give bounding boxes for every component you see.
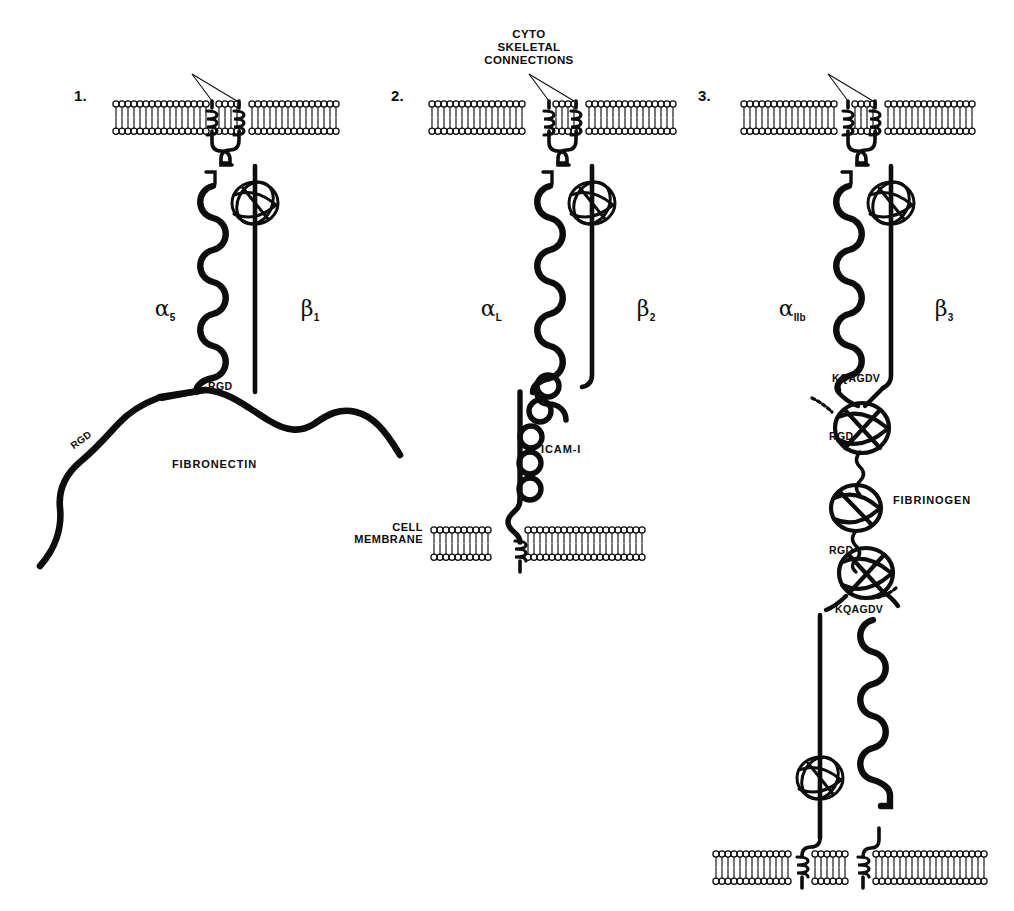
membrane-bilayer-3-left xyxy=(741,101,837,134)
panel-3-beta-label: β3 xyxy=(906,272,953,348)
beta-subscript-1: 1 xyxy=(314,312,320,323)
integrin-diagram: 1. α5 β1 RGD RGD FIBRONECTIN 2. CYTO SKE… xyxy=(0,0,1014,911)
alpha-subscript-3: IIb xyxy=(794,312,806,323)
cytoskeleton-connector-lines-1 xyxy=(192,74,237,101)
beta-symbol-3: β xyxy=(935,296,948,321)
cytoskeleton-connector-lines-3 xyxy=(828,74,873,101)
panel-2-number: 2. xyxy=(391,88,404,105)
icam-1-molecule xyxy=(508,375,566,572)
beta-subscript-2: 2 xyxy=(650,312,656,323)
rgd-label-3a: RGD xyxy=(829,431,853,443)
fibronectin-strand xyxy=(40,390,400,566)
membrane-bilayer-2-lower-left xyxy=(431,527,491,560)
panel-3-number: 3. xyxy=(698,88,711,105)
alpha-chain-2 xyxy=(533,101,567,392)
alpha-chain-3 xyxy=(836,101,866,390)
cytoskeleton-connector-lines-2 xyxy=(529,74,574,101)
membrane-bilayer-2-left xyxy=(429,101,525,134)
fibrinogen-label: FIBRINOGEN xyxy=(893,494,971,506)
panel-1-artwork xyxy=(40,74,400,566)
fibrinogen-molecule xyxy=(812,388,898,610)
beta-symbol-2: β xyxy=(637,296,650,321)
panel-1-number: 1. xyxy=(74,88,87,105)
alpha-subscript-2: L xyxy=(496,312,502,323)
panel-1-beta-label: β1 xyxy=(272,272,319,348)
beta-chain-1 xyxy=(221,101,280,392)
membrane-bilayer-2-lower-right xyxy=(525,527,645,560)
panel-3-alpha-label: αIIb xyxy=(750,272,806,348)
alpha-subscript-1: 5 xyxy=(170,312,176,323)
membrane-bilayer-1-right xyxy=(249,101,339,134)
alpha-chain-3-lower xyxy=(858,620,890,888)
icam-1-label: ICAM-I xyxy=(541,443,581,455)
membrane-bilayer-3-bottom-middle xyxy=(812,851,848,884)
alpha-symbol-2: α xyxy=(481,296,496,321)
beta-symbol-1: β xyxy=(301,296,314,321)
panel-2-alpha-label: αL xyxy=(452,272,502,348)
membrane-bilayer-2-right xyxy=(586,101,676,134)
alpha-symbol-1: α xyxy=(155,296,170,321)
diagram-artwork xyxy=(0,0,1014,911)
beta-subscript-3: 3 xyxy=(948,312,954,323)
membrane-bilayer-1-left xyxy=(113,101,209,134)
rgd-label-1a: RGD xyxy=(208,381,232,393)
kqagdv-label-bottom: KQAGDV xyxy=(835,604,883,616)
fibronectin-label: FIBRONECTIN xyxy=(172,458,257,470)
panel-2-beta-label: β2 xyxy=(608,272,655,348)
membrane-bilayer-3-right xyxy=(885,101,975,134)
membrane-bilayer-3-bottom-left xyxy=(713,851,791,884)
cell-membrane-label: CELL MEMBRANE xyxy=(348,521,423,546)
membrane-bilayer-3-bottom-right xyxy=(873,851,987,884)
alpha-chain-1 xyxy=(196,101,230,392)
kqagdv-label-top: KQAGDV xyxy=(832,373,880,385)
panel-1-alpha-label: α5 xyxy=(126,272,175,348)
rgd-label-3b: RGD xyxy=(829,545,853,557)
panel-3-artwork xyxy=(713,74,987,888)
rgd-binding-bar-1 xyxy=(162,390,204,398)
beta-chain-3-lower xyxy=(795,615,846,888)
alpha-symbol-3: α xyxy=(779,296,794,321)
cytoskeletal-connections-label: CYTO SKELETAL CONNECTIONS xyxy=(472,28,586,67)
